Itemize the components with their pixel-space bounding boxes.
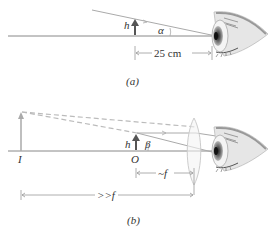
object-arrow-b: [132, 134, 140, 150]
panel-a: h α 25 cm (a): [8, 10, 268, 88]
object-arrow-a: [131, 19, 139, 35]
image-point-label: I: [17, 153, 23, 165]
object-label-a: h: [124, 19, 130, 31]
dashed-ray-upper: [22, 112, 196, 127]
ray-a: [92, 10, 216, 36]
image-distance-dimension: >>f: [21, 189, 193, 201]
object-point-label: O: [131, 153, 139, 165]
angle-alpha-label: α: [158, 24, 164, 36]
caption-b: (b): [127, 214, 140, 227]
focal-dimension: ~f: [136, 167, 194, 195]
diagram-canvas: h α 25 cm (a): [0, 0, 268, 231]
eye-icon-b: [212, 127, 268, 172]
object-label-b: h: [125, 138, 131, 150]
angle-beta-label: β: [144, 138, 151, 150]
image-distance-label: >>f: [97, 189, 117, 201]
panel-b: h β I O ~f: [8, 112, 268, 227]
image-arrow-b: [18, 112, 24, 151]
dashed-ray-lower: [22, 112, 137, 133]
eye-icon: [212, 12, 268, 57]
distance-dimension-a: 25 cm: [135, 46, 212, 60]
focal-distance-label: ~f: [158, 167, 169, 179]
caption-a: (a): [126, 75, 139, 88]
distance-label-a: 25 cm: [154, 47, 182, 59]
